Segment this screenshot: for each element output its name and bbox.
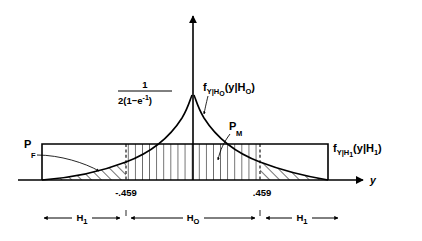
h0-label-leader [204,96,208,114]
pm-label-sub: M [236,129,242,138]
fraction-denominator: 2(1−e-1) [118,94,152,106]
peak-value-label: 1 2(1−e-1) [118,79,172,106]
pf-label-main: P [24,138,31,150]
h0-density-label: fY|HO(y|HO) [203,81,255,114]
x-axis-label: y [369,174,377,186]
pf-left-region [40,98,130,182]
threshold-right-label: .459 [253,187,272,198]
fraction-numerator: 1 [142,79,148,90]
pf-label-sub: F [31,151,36,160]
density-plot-figure: 1 2(1−e-1) fY|HO(y|HO) fY|H1(y|H1) P F [0,0,422,241]
h1-density-label-text: fY|H1(y|H1) [333,142,382,158]
pf-label-leader [37,155,99,171]
pf-right-region [258,98,332,182]
h1-density-label: fY|H1(y|H1) [333,142,382,158]
pf-label: P F [24,138,99,171]
threshold-left-label: -.459 [115,187,137,198]
h0-density-label-text: fY|HO(y|HO) [203,81,255,97]
figure-container: 1 2(1−e-1) fY|HO(y|HO) fY|H1(y|H1) P F [0,0,422,241]
